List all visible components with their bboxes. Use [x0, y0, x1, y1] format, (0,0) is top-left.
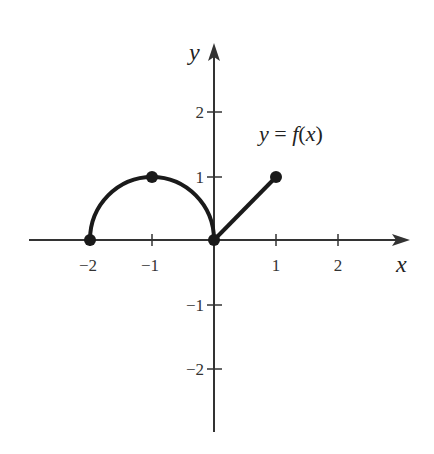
point-neg2-0 — [84, 234, 96, 246]
point-0-0 — [208, 234, 220, 246]
function-graph: −2 −1 1 2 2 1 −1 −2 x y y = f(x) — [0, 0, 434, 454]
x-tick-label: −1 — [141, 256, 159, 275]
y-tick-label: 2 — [196, 103, 205, 122]
y-tick-label: −1 — [186, 296, 204, 315]
y-tick-label: −2 — [186, 360, 204, 379]
x-axis-label: x — [395, 251, 407, 277]
x-tick-label: 2 — [334, 256, 343, 275]
point-neg1-1 — [146, 171, 158, 183]
y-axis-label: y — [187, 39, 200, 65]
y-tick-label: 1 — [196, 168, 205, 187]
function-label: y = f(x) — [257, 121, 323, 146]
x-tick-label: 1 — [272, 256, 281, 275]
point-1-1 — [270, 171, 282, 183]
line-segment — [214, 177, 276, 240]
x-tick-label: −2 — [79, 256, 97, 275]
